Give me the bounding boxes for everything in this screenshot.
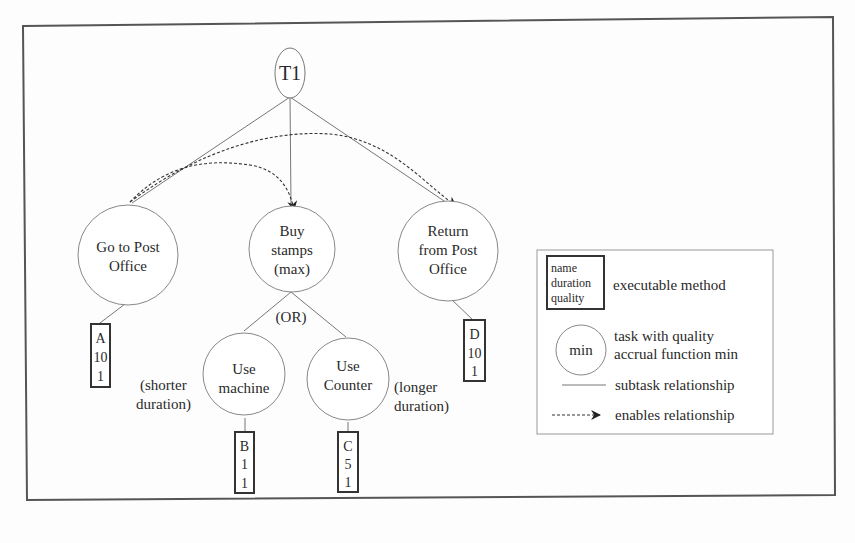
task-node-buy[interactable]: Buy stamps (max) — [249, 206, 335, 292]
enables-go-ret — [130, 134, 456, 206]
legend-enables-label: enables relationship — [615, 407, 735, 423]
legend-box-line: quality — [551, 291, 584, 305]
shorter-duration-label: duration) — [136, 396, 191, 413]
task-label-line: from Post — [419, 242, 479, 258]
task-node-ret[interactable]: Return from Post Office — [398, 201, 498, 301]
task-node-machine[interactable]: Use machine — [203, 333, 285, 415]
or-label: (OR) — [276, 309, 307, 326]
method-box-a[interactable]: A 10 1 — [91, 324, 110, 387]
edge-ret-d — [450, 298, 473, 320]
edge-t1-go — [132, 97, 290, 203]
task-label-line: Office — [109, 258, 147, 274]
method-duration: 5 — [345, 457, 352, 472]
enables-go-buy — [130, 163, 294, 210]
edge-go-a — [96, 304, 125, 326]
method-name: B — [240, 439, 249, 454]
method-box-b[interactable]: B 1 1 — [235, 432, 254, 493]
task-label-line: Use — [232, 361, 256, 377]
method-quality: 1 — [471, 364, 478, 379]
method-name: C — [343, 439, 352, 454]
legend-method-label: executable method — [613, 277, 726, 293]
task-node-t1[interactable]: T1 — [275, 48, 305, 98]
method-duration: 10 — [468, 346, 482, 361]
legend-task-label: accrual function min — [614, 346, 739, 362]
task-tree-diagram: T1 Go to Post Office Buy stamps (max) Re… — [0, 0, 855, 543]
legend: name duration quality executable method … — [537, 250, 773, 434]
method-box-d[interactable]: D 10 1 — [464, 320, 485, 381]
longer-duration-label: duration) — [394, 398, 449, 415]
task-label-line: Use — [336, 358, 360, 374]
task-label-line: machine — [219, 380, 270, 396]
task-label-line: Counter — [324, 377, 372, 393]
legend-box-line: duration — [551, 276, 591, 290]
task-label-line: Return — [428, 223, 469, 239]
task-label-line: (max) — [274, 261, 310, 278]
edge-t1-buy — [290, 97, 291, 205]
method-quality: 1 — [97, 369, 104, 384]
legend-subtask-label: subtask relationship — [615, 377, 735, 393]
task-node-counter[interactable]: Use Counter — [307, 338, 389, 420]
method-box-c[interactable]: C 5 1 — [338, 432, 358, 492]
task-label-line: stamps — [271, 242, 313, 258]
method-quality: 1 — [345, 475, 352, 490]
task-node-go[interactable]: Go to Post Office — [78, 205, 178, 305]
legend-box-line: name — [551, 261, 577, 275]
task-label-line: Buy — [279, 223, 305, 239]
shorter-duration-label: (shorter — [140, 377, 187, 394]
task-label: T1 — [279, 62, 301, 84]
method-duration: 10 — [94, 350, 108, 365]
legend-task-label: task with quality — [614, 328, 714, 344]
longer-duration-label: (longer — [394, 379, 437, 396]
edge-t1-ret — [290, 97, 450, 205]
method-quality: 1 — [241, 476, 248, 491]
method-name: A — [95, 331, 106, 346]
method-name: D — [469, 327, 479, 342]
task-label-line: Go to Post — [96, 239, 160, 255]
legend-circle-label: min — [569, 342, 593, 358]
task-label-line: Office — [429, 261, 467, 277]
method-duration: 1 — [241, 457, 248, 472]
